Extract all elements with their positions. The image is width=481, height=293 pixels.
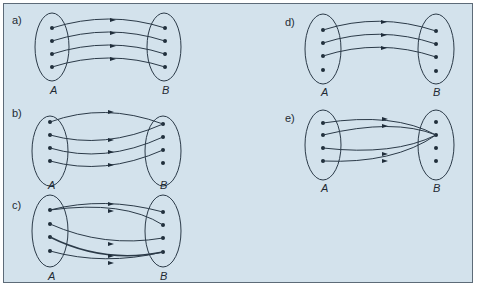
set-a-label: A <box>320 182 328 194</box>
set-a-label: A <box>49 84 57 96</box>
diagram-panel: a) A B b) <box>3 3 473 283</box>
diagram-label: e) <box>285 112 295 124</box>
set-a-label: A <box>47 270 55 282</box>
diagram-label: d) <box>285 16 295 28</box>
diagram-a: a) A B <box>12 13 181 96</box>
diagram-label: a) <box>12 14 22 26</box>
diagram-e: e) A B <box>285 110 454 194</box>
diagram-label: b) <box>12 107 22 119</box>
mapping-diagrams: a) A B b) <box>4 4 474 284</box>
set-a-label: A <box>47 179 55 191</box>
diagram-c: c) A B <box>12 195 181 282</box>
set-b-label: B <box>433 86 440 98</box>
set-a-label: A <box>320 86 328 98</box>
set-b-label: B <box>162 84 169 96</box>
set-b-label: B <box>160 179 167 191</box>
diagram-d: d) A B <box>285 14 454 98</box>
diagram-b: b) A B <box>12 107 181 191</box>
set-b-label: B <box>433 182 440 194</box>
set-b-label: B <box>160 270 167 282</box>
diagram-label: c) <box>12 199 21 211</box>
